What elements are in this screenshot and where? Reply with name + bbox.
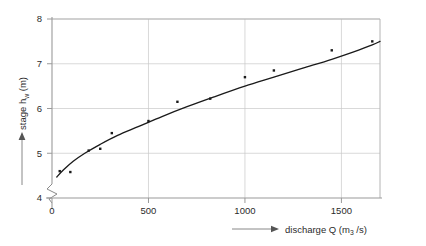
- y-tick-label-5: 5: [37, 148, 42, 159]
- data-point-8: [244, 76, 246, 78]
- y-tick-label-7: 7: [37, 58, 42, 69]
- data-point-3: [99, 148, 101, 150]
- chart-svg: 45678 050010001500 stage hw (m) discharg…: [0, 0, 426, 246]
- data-point-1: [69, 171, 71, 173]
- y-axis-ticks: 45678: [37, 13, 52, 203]
- y-axis-title: stage hw (m): [17, 77, 30, 130]
- data-point-10: [331, 49, 333, 51]
- data-point-4: [111, 132, 113, 134]
- x-tick-label-1000: 1000: [234, 205, 255, 216]
- x-axis-arrow-head-icon: [271, 226, 279, 232]
- y-axis-arrow-head-icon: [19, 132, 26, 140]
- data-point-6: [176, 101, 178, 103]
- x-tick-label-0: 0: [49, 205, 54, 216]
- y-axis-title-group: stage hw (m): [17, 77, 30, 185]
- y-tick-label-8: 8: [37, 13, 42, 24]
- x-axis-title-group: discharge Q (m3 /s): [232, 224, 367, 237]
- data-point-5: [147, 120, 149, 122]
- x-axis-title: discharge Q (m3 /s): [285, 224, 367, 237]
- data-point-7: [209, 97, 211, 99]
- y-tick-label-6: 6: [37, 103, 42, 114]
- data-point-2: [87, 149, 89, 151]
- data-point-0: [59, 170, 61, 172]
- x-axis-ticks: 050010001500: [49, 198, 352, 216]
- stage-discharge-chart: 45678 050010001500 stage hw (m) discharg…: [0, 0, 426, 246]
- x-tick-label-500: 500: [141, 205, 157, 216]
- y-tick-label-4: 4: [37, 192, 42, 203]
- x-tick-label-1500: 1500: [331, 205, 352, 216]
- data-point-9: [273, 69, 275, 71]
- data-point-11: [371, 40, 373, 42]
